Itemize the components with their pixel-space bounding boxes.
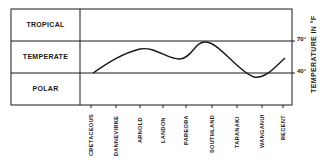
zone-label-temperate: TEMPERATE [11, 53, 80, 60]
paleotemperature-chart: TROPICAL TEMPERATE POLAR 70° 40° TEMPERA… [0, 0, 329, 165]
x-label-dannevirke: DANNEVIRKE [113, 116, 119, 156]
y-tick-40: 40° [297, 68, 306, 74]
x-label-southland: SOUTHLAND [209, 115, 215, 153]
x-label-recent: RECENT [280, 115, 286, 140]
x-label-arnold: ARNOLD [137, 117, 143, 143]
x-label-wanganui: WANGANUI [259, 114, 265, 148]
y-tick-70: 70° [297, 36, 306, 42]
x-label-pareora: PAREORA [183, 115, 189, 145]
y-axis-title: TEMPERATURE IN °F [310, 15, 317, 93]
x-label-taranaki: TARANAKI [234, 116, 240, 148]
zone-label-polar: POLAR [11, 85, 80, 92]
x-label-landon: LANDON [160, 117, 166, 143]
zone-label-tropical: TROPICAL [11, 21, 80, 28]
temperature-curve [93, 42, 285, 77]
x-label-cretaceous: CRETACEOUS [88, 114, 94, 156]
